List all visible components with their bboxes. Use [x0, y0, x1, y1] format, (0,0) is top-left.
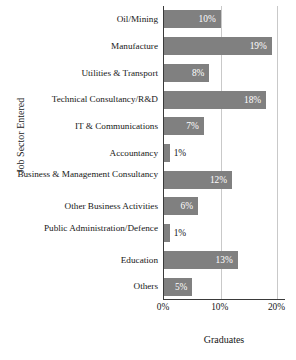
bar-value-label: 1%: [174, 144, 187, 162]
category-label: Technical Consultancy/R&D: [52, 94, 158, 105]
bar-value-label: 8%: [192, 64, 205, 82]
category-label: Public Administration/Defence: [14, 223, 158, 234]
bar-group: 7%: [164, 117, 286, 135]
bar[interactable]: [164, 224, 170, 242]
category-label: Others: [134, 281, 159, 292]
bar-group: 5%: [164, 278, 286, 296]
bar-chart: Job Sector Entered Oil/MiningManufacture…: [0, 0, 296, 360]
x-tick-label: 0%: [157, 302, 170, 312]
x-axis-tick-labels: 0%10%20%: [163, 302, 285, 316]
plot-area: 10%19%8%18%7%1%12%6%1%13%5%: [163, 6, 285, 300]
category-label-column: Oil/MiningManufactureUtilities & Transpo…: [14, 6, 162, 300]
x-tick-label: 20%: [268, 302, 285, 312]
bar-group: 1%: [164, 144, 286, 162]
bar-value-label: 18%: [244, 91, 261, 109]
bar-group: 12%: [164, 171, 286, 189]
category-label: IT & Communications: [75, 121, 158, 132]
x-axis-title: Graduates: [163, 334, 285, 345]
bar-group: 1%: [164, 224, 286, 242]
bar-group: 6%: [164, 197, 286, 215]
bar-group: 8%: [164, 64, 286, 82]
bar-group: 13%: [164, 251, 286, 269]
category-label: Accountancy: [110, 148, 158, 159]
bar-value-label: 1%: [174, 224, 187, 242]
category-label: Other Business Activities: [65, 201, 158, 212]
category-label: Business & Management Consultancy: [14, 169, 158, 180]
bar-group: 19%: [164, 37, 286, 55]
bar-value-label: 6%: [181, 197, 194, 215]
bar-group: 10%: [164, 10, 286, 28]
bar-value-label: 12%: [210, 171, 227, 189]
category-label: Utilities & Transport: [81, 68, 158, 79]
category-label: Manufacture: [111, 41, 158, 52]
bar-value-label: 5%: [175, 278, 188, 296]
category-label: Education: [121, 255, 158, 266]
category-label: Oil/Mining: [117, 14, 158, 25]
x-tick-label: 10%: [211, 302, 228, 312]
bar[interactable]: [164, 144, 170, 162]
bar-group: 18%: [164, 91, 286, 109]
bar-value-label: 10%: [199, 10, 216, 28]
bar-value-label: 13%: [216, 251, 233, 269]
bar-value-label: 7%: [186, 117, 199, 135]
bar-value-label: 19%: [250, 37, 267, 55]
